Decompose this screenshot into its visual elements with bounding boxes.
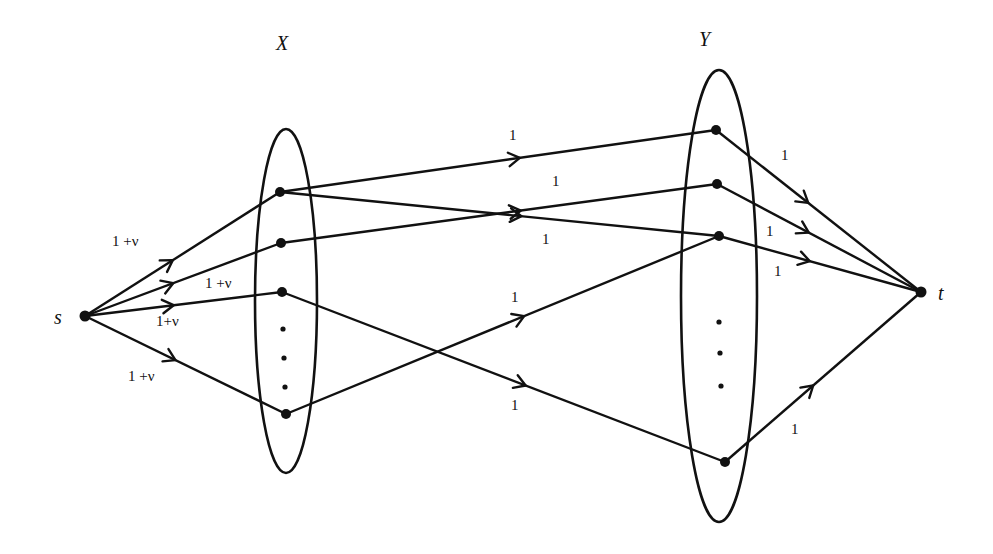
x-vertex (275, 187, 285, 197)
sink-node (916, 287, 927, 298)
edge-labels-group: 1 +ν1 +ν1+ν1 +ν111111111 (112, 127, 799, 437)
ellipsis-dot (716, 319, 721, 324)
edge-Y1-t (717, 184, 921, 292)
x-vertex (277, 287, 287, 297)
edge-X0-Y0 (280, 130, 716, 192)
edge-capacity-label: 1 (781, 147, 789, 163)
nodes-group (80, 125, 927, 467)
edges-group (85, 130, 921, 462)
ellipsis-dot (281, 355, 286, 360)
set-label-x: X (275, 32, 289, 54)
edge-capacity-label: 1 (511, 397, 519, 413)
x-vertex (276, 238, 286, 248)
edge-Y2-t (719, 236, 921, 292)
edge-capacity-label: 1 (766, 223, 774, 239)
edge-capacity-label: 1 (774, 263, 782, 279)
edge-capacity-label: 1 +ν (128, 368, 155, 384)
sink-label: t (938, 282, 944, 304)
source-label: s (54, 306, 62, 328)
ellipsis-dot (717, 350, 722, 355)
y-vertex (720, 457, 730, 467)
edge-capacity-label: 1 +ν (205, 275, 232, 291)
y-vertex (711, 125, 721, 135)
ellipsis-dot (280, 326, 285, 331)
edge-capacity-label: 1+ν (156, 313, 179, 329)
edge-capacity-label: 1 (791, 421, 799, 437)
edge-X2-Y3 (282, 292, 725, 462)
y-vertex (712, 179, 722, 189)
y-vertex (714, 231, 724, 241)
x-vertex (281, 409, 291, 419)
edge-capacity-label: 1 (511, 289, 519, 305)
ellipsis-dot (718, 383, 723, 388)
edge-capacity-label: 1 (509, 127, 517, 143)
edge-X0-Y2 (280, 192, 719, 236)
edge-capacity-label: 1 +ν (112, 233, 139, 249)
edge-Y0-t (716, 130, 921, 292)
edge-X3-Y2 (286, 236, 719, 414)
set-y-ellipse (681, 70, 757, 522)
ellipsis-dot (282, 384, 287, 389)
edge-capacity-label: 1 (552, 173, 560, 189)
set-label-y: Y (699, 28, 712, 50)
source-node (80, 311, 91, 322)
flow-network-diagram: X Y 1 +ν1 +ν1+ν1 +ν111111111 s t (0, 0, 993, 554)
edge-capacity-label: 1 (542, 231, 550, 247)
